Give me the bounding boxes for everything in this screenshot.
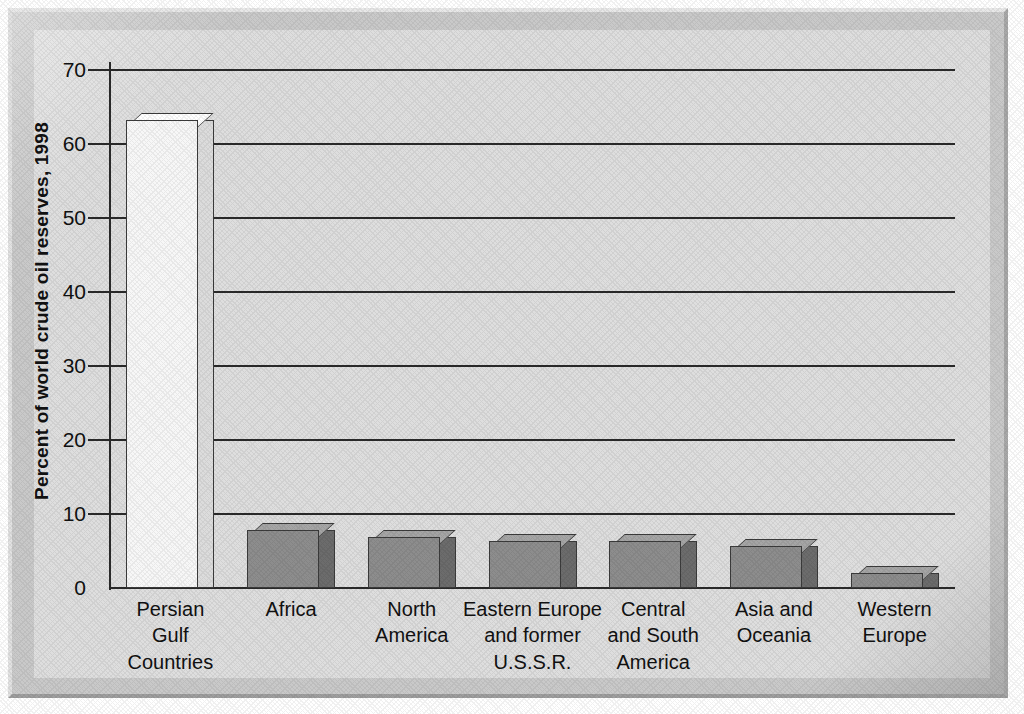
y-axis-tick-label: 50 <box>10 207 86 228</box>
y-axis-tick-label: 60 <box>10 133 86 154</box>
y-axis-title: Percent of world crude oil reserves, 199… <box>31 101 53 521</box>
gridline <box>110 513 955 515</box>
bar-front-face <box>368 537 440 588</box>
bar[interactable] <box>247 516 335 588</box>
y-axis-tick-label: 30 <box>10 355 86 376</box>
bar-front-face <box>126 120 198 588</box>
y-axis-tick-mark <box>88 439 110 441</box>
bar-front-face <box>247 530 319 588</box>
bar-side-face <box>561 541 577 588</box>
gridline <box>110 69 955 71</box>
gridline <box>110 143 955 145</box>
bar[interactable] <box>609 527 697 588</box>
x-axis-category-label: WesternEurope <box>823 596 966 649</box>
bar[interactable] <box>489 527 577 588</box>
bar-front-face <box>609 541 681 588</box>
y-axis-tick-label: 10 <box>10 503 86 524</box>
y-axis-tick-label: 70 <box>10 59 86 80</box>
x-axis-category-label-line: Countries <box>99 649 242 675</box>
bar[interactable] <box>368 523 456 588</box>
y-axis-tick-label: 20 <box>10 429 86 450</box>
bar-side-face <box>198 120 214 588</box>
y-axis-tick-mark <box>88 365 110 367</box>
gridline <box>110 365 955 367</box>
y-axis-tick-label: 0 <box>10 577 86 598</box>
bar-front-face <box>730 546 802 588</box>
bar-side-face <box>802 546 818 588</box>
y-axis-tick-label: 40 <box>10 281 86 302</box>
x-axis-category-label-line: Europe <box>823 622 966 648</box>
y-axis-tick-mark <box>88 291 110 293</box>
bar[interactable] <box>851 559 939 588</box>
y-axis-tick-mark <box>88 513 110 515</box>
y-axis-tick-mark <box>88 69 110 71</box>
bar-side-face <box>681 541 697 588</box>
bar-front-face <box>851 573 923 588</box>
x-axis-category-label-line: Gulf <box>99 622 242 648</box>
gridline <box>110 439 955 441</box>
y-axis-line <box>109 62 111 590</box>
gridline <box>110 217 955 219</box>
bar-front-face <box>489 541 561 588</box>
bar-side-face <box>440 537 456 588</box>
x-axis-category-label-line: Western <box>823 596 966 622</box>
bar[interactable] <box>730 532 818 588</box>
bar-chart: Percent of world crude oil reserves, 199… <box>0 0 1024 714</box>
y-axis-tick-mark <box>88 217 110 219</box>
gridline <box>110 291 955 293</box>
y-axis-tick-mark <box>88 143 110 145</box>
bar-side-face <box>319 530 335 588</box>
x-axis-category-label-line: America <box>582 649 725 675</box>
bar[interactable] <box>126 106 214 588</box>
